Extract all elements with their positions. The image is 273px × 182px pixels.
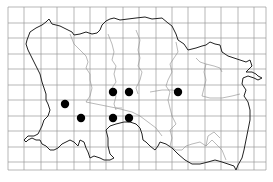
grid-lines [8,7,266,170]
distribution-map [0,0,273,182]
record-dot [125,114,133,122]
parish-boundaries [70,30,240,160]
record-dot [77,114,85,122]
record-dot [109,114,117,122]
record-dot [109,88,117,96]
record-dot [174,88,182,96]
record-dot [61,100,69,108]
record-dots [61,88,182,122]
map-canvas [0,0,273,182]
record-dot [125,88,133,96]
